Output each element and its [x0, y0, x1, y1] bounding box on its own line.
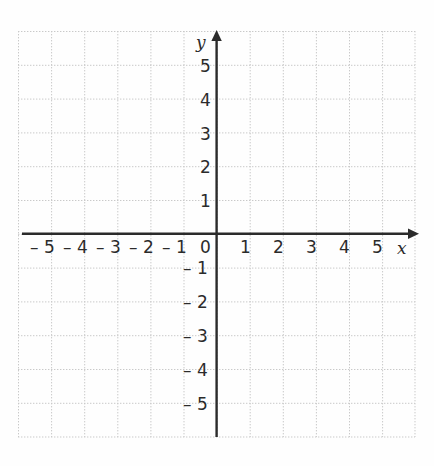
y-tick-label: – 4	[183, 362, 208, 379]
x-tick-label: 3	[306, 239, 317, 256]
y-tick-label: 1	[200, 193, 211, 210]
y-tick-label: – 5	[183, 396, 208, 413]
y-axis-label: y	[196, 34, 206, 51]
x-tick-label: – 5	[30, 239, 55, 256]
y-tick-label: – 1	[183, 260, 208, 277]
origin-label: 0	[200, 239, 211, 256]
x-tick-label: 4	[339, 239, 350, 256]
y-tick-label: 2	[200, 159, 211, 176]
coordinate-plane-svg	[0, 0, 434, 466]
x-axis-label: x	[397, 240, 407, 257]
x-tick-label: – 3	[96, 239, 121, 256]
y-tick-label: 5	[200, 58, 211, 75]
x-axis-arrowhead	[408, 229, 419, 239]
x-tick-label: – 1	[162, 239, 187, 256]
y-tick-label: 4	[200, 92, 211, 109]
x-tick-label: 5	[372, 239, 383, 256]
y-tick-label: – 3	[183, 328, 208, 345]
x-tick-label: – 2	[129, 239, 154, 256]
coordinate-grid-figure: y x 0 – 5 – 4 – 3 – 2 – 1 1 2 3 4 5 5 4 …	[0, 0, 434, 466]
y-tick-label: – 2	[183, 294, 208, 311]
x-tick-label: 1	[240, 239, 251, 256]
x-tick-label: 2	[273, 239, 284, 256]
x-tick-label: – 4	[63, 239, 88, 256]
y-tick-label: 3	[200, 126, 211, 143]
